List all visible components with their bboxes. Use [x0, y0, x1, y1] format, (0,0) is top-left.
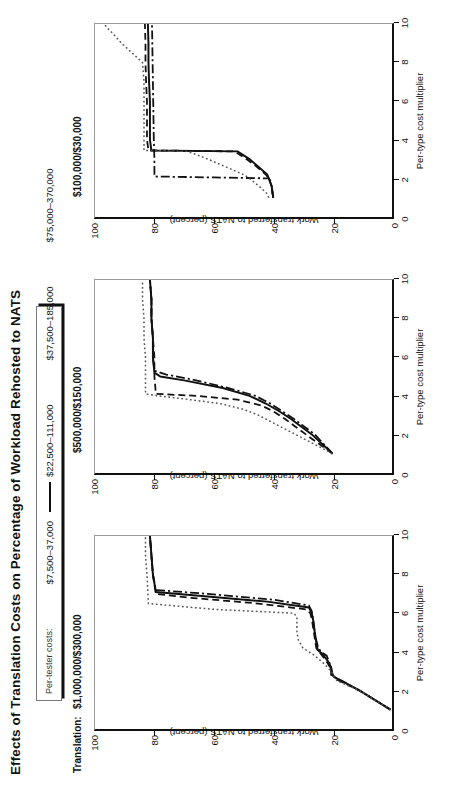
x-tick-mark	[394, 396, 399, 397]
y-axis-label: Work transferred to NATS (percent)	[149, 727, 339, 738]
x-tick-label: 6	[399, 99, 410, 104]
y-axis-label: Work transferred to NATS (percent)	[149, 215, 339, 226]
legend-item-0[interactable]: $7,500–37,000	[44, 521, 55, 619]
x-tick-mark	[394, 691, 399, 692]
series-line	[104, 24, 269, 198]
x-tick-mark	[394, 534, 399, 535]
panel-prefix-label: Translation:	[72, 716, 83, 773]
series-line	[150, 536, 391, 710]
legend-swatch-longdash-icon	[45, 482, 54, 512]
x-tick-label: 4	[399, 138, 410, 143]
x-tick-label: 8	[399, 572, 410, 577]
y-tick-label: 0	[389, 479, 400, 484]
y-tick-label: 40	[269, 479, 280, 490]
x-tick-label: 8	[399, 60, 410, 65]
panel-translation-500000-150000: $500,000/$150,000 Work transferred to NA…	[70, 265, 462, 515]
series-line	[150, 280, 333, 454]
plot-frame	[94, 535, 394, 731]
y-tick-label: 20	[329, 735, 340, 746]
x-tick-mark	[394, 612, 399, 613]
y-tick-label: 80	[149, 479, 160, 490]
y-tick-mark	[154, 475, 155, 480]
legend-item-2[interactable]: $37,500–185,000	[44, 287, 55, 396]
x-tick-label: 0	[399, 728, 410, 733]
x-tick-label: 0	[399, 216, 410, 221]
panel-title: $500,000/$150,000	[72, 367, 83, 453]
panel-title: $1,000,000/$300,000	[72, 614, 83, 709]
x-tick-label: 2	[399, 433, 410, 438]
plot-area: Work transferred to NATS (percent) Per-t…	[94, 535, 394, 731]
y-tick-label: 80	[149, 735, 160, 746]
y-tick-label: 60	[209, 223, 220, 234]
x-tick-label: 10	[399, 18, 410, 29]
y-tick-mark	[214, 731, 215, 736]
y-tick-label: 20	[329, 223, 340, 234]
series-line	[150, 536, 391, 710]
y-tick-label: 0	[389, 735, 400, 740]
page-title: Effects of Translation Costs on Percenta…	[8, 290, 23, 775]
y-tick-label: 60	[209, 479, 220, 490]
legend-item-3[interactable]: $75,000–370,000	[44, 169, 55, 278]
y-tick-label: 40	[269, 735, 280, 746]
legend-item-label: $37,500–185,000	[44, 287, 55, 361]
legend-item-label: $7,500–37,000	[44, 521, 55, 584]
chart-canvas: Effects of Translation Costs on Percenta…	[0, 0, 468, 789]
x-tick-label: 4	[399, 394, 410, 399]
legend-swatch-dotted-icon	[45, 248, 54, 278]
x-tick-mark	[394, 22, 399, 23]
y-tick-mark	[154, 219, 155, 224]
panel-translation-100000-30000: $100,000/$30,000 Work transferred to NAT…	[70, 9, 462, 259]
x-tick-label: 6	[399, 355, 410, 360]
x-tick-label: 8	[399, 316, 410, 321]
series-line	[148, 24, 273, 198]
x-tick-mark	[394, 179, 399, 180]
x-tick-mark	[394, 356, 399, 357]
x-axis-label: Per-type cost multiplier	[414, 279, 425, 475]
x-tick-mark	[394, 317, 399, 318]
panel-translation-1000000-300000: Translation: $1,000,000/$300,000 Work tr…	[70, 521, 462, 771]
plot-frame	[94, 279, 394, 475]
legend-title: Per-tester costs:	[44, 628, 54, 694]
legend-item-1[interactable]: $22,500–111,000	[44, 405, 55, 513]
y-tick-mark	[214, 219, 215, 224]
legend-item-label: $75,000–370,000	[44, 169, 55, 243]
panel-row: Translation: $1,000,000/$300,000 Work tr…	[70, 0, 462, 789]
x-tick-mark	[394, 573, 399, 574]
x-tick-mark	[394, 435, 399, 436]
legend-swatch-dashdot-icon	[45, 589, 54, 619]
series-line	[145, 536, 390, 710]
x-tick-mark	[394, 100, 399, 101]
x-axis-label: Per-type cost multiplier	[414, 535, 425, 731]
x-tick-label: 10	[399, 530, 410, 541]
legend-swatch-dash-icon	[45, 366, 54, 396]
y-tick-label: 80	[149, 223, 160, 234]
x-tick-label: 4	[399, 650, 410, 655]
x-tick-label: 2	[399, 177, 410, 182]
y-tick-label: 100	[89, 223, 100, 239]
y-tick-mark	[274, 731, 275, 736]
y-tick-mark	[334, 219, 335, 224]
series-line	[152, 24, 273, 198]
y-tick-mark	[334, 475, 335, 480]
y-tick-label: 100	[89, 735, 100, 751]
y-tick-mark	[154, 731, 155, 736]
y-tick-label: 0	[389, 223, 400, 228]
legend: Per-tester costs: $7,500–37,000 $22,500–…	[36, 306, 62, 701]
y-tick-label: 40	[269, 223, 280, 234]
y-tick-label: 60	[209, 735, 220, 746]
x-tick-label: 6	[399, 611, 410, 616]
x-tick-mark	[394, 61, 399, 62]
y-tick-mark	[214, 475, 215, 480]
x-tick-label: 0	[399, 472, 410, 477]
x-tick-label: 10	[399, 274, 410, 285]
plot-frame	[94, 23, 394, 219]
x-tick-mark	[394, 140, 399, 141]
x-tick-mark	[394, 278, 399, 279]
x-axis-label: Per-type cost multiplier	[414, 23, 425, 219]
y-tick-label: 20	[329, 479, 340, 490]
x-tick-mark	[394, 652, 399, 653]
x-tick-label: 2	[399, 689, 410, 694]
series-line	[150, 536, 391, 710]
y-tick-mark	[334, 731, 335, 736]
plot-area: Work transferred to NATS (percent) Per-t…	[94, 279, 394, 475]
